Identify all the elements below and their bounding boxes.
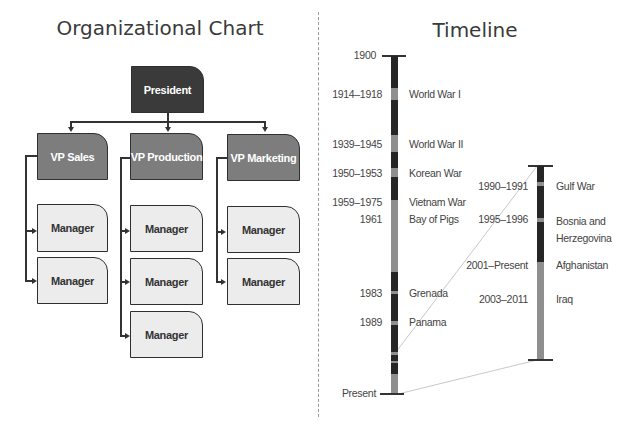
war-segment-ww1 (391, 88, 398, 100)
event-name: Gulf War (556, 180, 595, 192)
event-name: Bay of Pigs (409, 213, 459, 225)
event-name: Bosnia and Herzegovina (556, 213, 618, 247)
event-dates: 1990–1991 (460, 180, 528, 192)
zoom-end-cap (528, 359, 553, 361)
event-dates: 2003–2011 (460, 293, 528, 305)
peace-segment (391, 152, 398, 168)
zoom-connector-lines (0, 0, 624, 429)
war-segment-recent (391, 374, 398, 394)
war-segment-korea (391, 168, 398, 177)
event-name: Korean War (409, 167, 462, 179)
peace-segment (537, 166, 544, 182)
timeline-end-cap (380, 393, 404, 395)
event-dates: 1950–1953 (320, 167, 382, 179)
event-name: Vietnam War (409, 196, 466, 208)
event-name: Grenada (409, 287, 448, 299)
war-segment-vietnam (391, 200, 398, 272)
event-name: Iraq (556, 293, 573, 305)
peace-segment (537, 186, 544, 218)
event-name: World War II (409, 138, 463, 150)
peace-segment (391, 294, 398, 321)
event-name: Panama (409, 316, 446, 328)
peace-segment (391, 363, 398, 374)
war-segment-ww2 (391, 135, 398, 152)
peace-segment (391, 272, 398, 291)
event-dates: 1995–1996 (460, 213, 528, 225)
peace-segment (391, 177, 398, 200)
event-dates: 1983 (320, 287, 382, 299)
peace-segment (391, 100, 398, 135)
peace-segment (391, 56, 398, 88)
war-segment-afghanistan-iraq (537, 262, 544, 360)
timeline-end-label: Present (326, 387, 376, 399)
event-dates: 1959–1975 (320, 196, 382, 208)
event-dates: 2001–Present (460, 259, 528, 271)
event-dates: 1989 (320, 316, 382, 328)
event-dates: 1939–1945 (320, 138, 382, 150)
event-dates: 1914–1918 (320, 88, 382, 100)
event-name: Afghanistan (556, 259, 608, 271)
peace-segment (391, 325, 398, 352)
timeline-start-label: 1900 (330, 49, 376, 61)
event-dates: 1961 (320, 213, 382, 225)
peace-segment (537, 222, 544, 262)
event-name: World War I (409, 88, 461, 100)
